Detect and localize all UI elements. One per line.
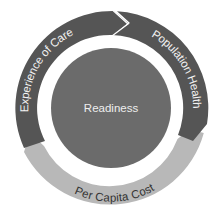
cycle-diagram: Readiness Experience of Care Population … xyxy=(0,0,223,216)
center-label: Readiness xyxy=(84,102,139,114)
